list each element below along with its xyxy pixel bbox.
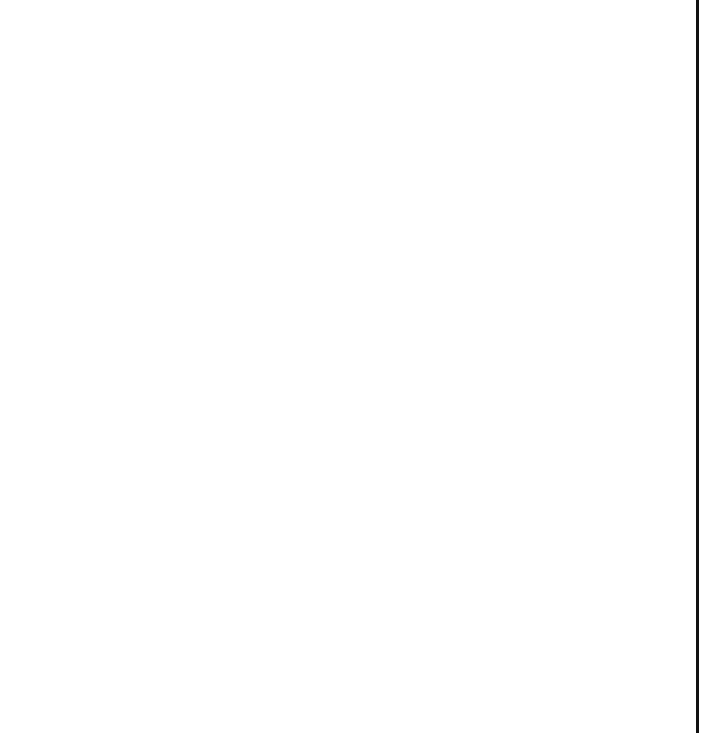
page-border-right [696,0,699,733]
coordinate-grid-worksheet [0,0,701,733]
